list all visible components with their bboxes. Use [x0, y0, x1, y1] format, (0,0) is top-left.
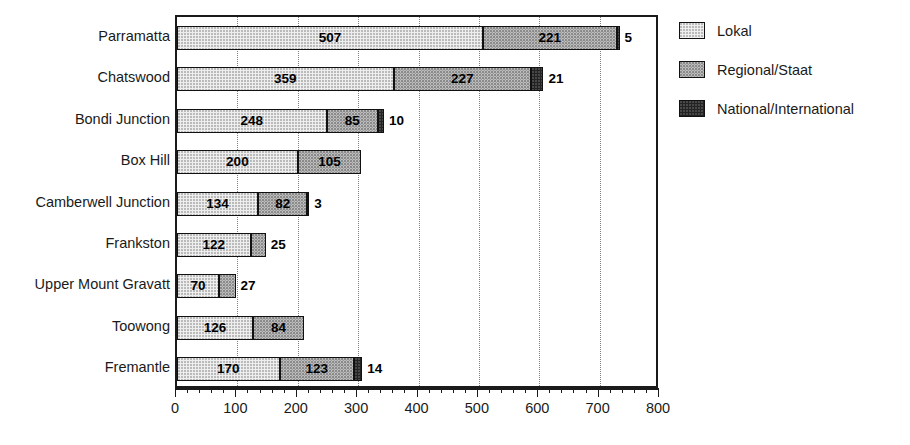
y-axis-category-labels: ParramattaChatswoodBondi JunctionBox Hil…: [0, 15, 170, 388]
bar-value-label: 126: [178, 321, 252, 335]
x-tick-major: [477, 388, 478, 397]
bar-value-label: 122: [178, 238, 250, 252]
bar-segment: 248: [177, 109, 327, 133]
category-label: Chatswood: [0, 70, 170, 85]
x-tick-major: [175, 388, 176, 397]
x-tick-major: [537, 388, 538, 397]
bar-segment: [219, 274, 235, 298]
x-tick-major: [598, 388, 599, 397]
bar-row: 35922721: [177, 67, 660, 91]
bar-value-label: 507: [178, 31, 482, 45]
bar-segment: [354, 357, 362, 381]
bar-row: 12225: [177, 233, 660, 257]
bar-value-label-outside: 10: [384, 114, 404, 128]
bar-value-label-outside: 5: [620, 31, 633, 45]
category-label: Bondi Junction: [0, 112, 170, 127]
x-tick-minor: [429, 388, 430, 393]
category-label: Box Hill: [0, 153, 170, 168]
bar-segment: 359: [177, 67, 394, 91]
x-axis: 0100200300400500600700800: [175, 388, 658, 389]
bars-layer: 5072215359227212488510200105134823122257…: [177, 17, 656, 386]
legend-swatch-icon: [679, 100, 705, 117]
bar-row: 200105: [177, 150, 660, 174]
bar-row: 12684: [177, 316, 660, 340]
x-tick-minor: [465, 388, 466, 393]
legend-label: Lokal: [717, 24, 752, 39]
x-tick-minor: [199, 388, 200, 393]
bar-value-label: 248: [178, 114, 326, 128]
plot-area: 5072215359227212488510200105134823122257…: [175, 15, 658, 388]
bar-value-label: 359: [178, 72, 393, 86]
x-tick-label: 200: [284, 401, 308, 416]
x-tick-minor: [561, 388, 562, 393]
x-tick-label: 100: [223, 401, 247, 416]
bar-segment: 227: [394, 67, 531, 91]
bar-value-label: 85: [328, 114, 377, 128]
bar-value-label: 105: [299, 155, 360, 169]
bar-row: 134823: [177, 192, 660, 216]
x-tick-minor: [211, 388, 212, 393]
bar-segment: 70: [177, 274, 219, 298]
x-tick-minor: [489, 388, 490, 393]
category-label: Parramatta: [0, 29, 170, 44]
category-label: Frankston: [0, 236, 170, 251]
bar-value-label-outside: 25: [266, 238, 286, 252]
bar-segment: 221: [483, 26, 616, 50]
bar-segment: 85: [327, 109, 378, 133]
bar-value-label: 70: [178, 280, 218, 294]
x-tick-minor: [586, 388, 587, 393]
x-tick-label: 500: [465, 401, 489, 416]
x-tick-minor: [380, 388, 381, 393]
category-label: Upper Mount Gravatt: [0, 277, 170, 292]
x-tick-label: 600: [525, 401, 549, 416]
x-tick-minor: [441, 388, 442, 393]
bar-segment: 134: [177, 192, 258, 216]
bar-row: 17012314: [177, 357, 660, 381]
legend-label: National/International: [717, 102, 854, 117]
x-tick-minor: [284, 388, 285, 393]
bar-segment: 123: [280, 357, 354, 381]
x-tick-minor: [610, 388, 611, 393]
x-tick-label: 700: [586, 401, 610, 416]
x-tick-minor: [308, 388, 309, 393]
x-tick-minor: [501, 388, 502, 393]
bar-value-label-outside: 21: [543, 72, 563, 86]
bar-segment: 82: [258, 192, 308, 216]
bar-value-label-outside: 27: [236, 280, 256, 294]
x-tick-minor: [513, 388, 514, 393]
x-tick-major: [417, 388, 418, 397]
bar-value-label: 221: [484, 31, 615, 45]
x-tick-major: [658, 388, 659, 397]
bar-segment: 507: [177, 26, 483, 50]
x-tick-minor: [187, 388, 188, 393]
bar-row: 5072215: [177, 26, 660, 50]
bar-value-label: 227: [395, 72, 530, 86]
x-tick-label: 0: [171, 401, 179, 416]
x-tick-minor: [622, 388, 623, 393]
bar-value-label: 134: [178, 197, 257, 211]
x-tick-minor: [404, 388, 405, 393]
bar-value-label: 170: [178, 363, 279, 377]
x-tick-major: [235, 388, 236, 397]
x-tick-minor: [344, 388, 345, 393]
x-tick-major: [296, 388, 297, 397]
x-tick-minor: [634, 388, 635, 393]
x-tick-minor: [247, 388, 248, 393]
bar-value-label: 123: [281, 363, 353, 377]
x-tick-minor: [453, 388, 454, 393]
x-tick-minor: [223, 388, 224, 393]
legend-swatch-icon: [679, 22, 705, 39]
x-tick-minor: [573, 388, 574, 393]
x-tick-label: 800: [646, 401, 670, 416]
x-tick-label: 300: [344, 401, 368, 416]
x-tick-minor: [332, 388, 333, 393]
x-tick-minor: [549, 388, 550, 393]
bar-segment: 170: [177, 357, 280, 381]
bar-value-label: 82: [259, 197, 307, 211]
x-tick-label: 400: [404, 401, 428, 416]
bar-value-label: 84: [254, 321, 303, 335]
bar-row: 2488510: [177, 109, 660, 133]
category-label: Camberwell Junction: [0, 195, 170, 210]
x-tick-minor: [368, 388, 369, 393]
x-tick-minor: [260, 388, 261, 393]
